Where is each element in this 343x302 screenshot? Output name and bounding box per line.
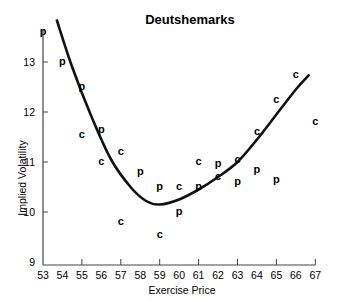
put-point: p [40,25,47,37]
call-point: c [176,180,182,192]
call-point: c [293,68,299,80]
x-tick-label: 65 [271,269,283,281]
axes: 910111213535455565758596061626364656667 [23,30,321,281]
y-tick-label: 9 [29,256,35,268]
put-point: p [156,180,163,192]
call-point: c [273,93,279,105]
put-point: p [195,180,202,192]
x-tick-label: 63 [232,269,244,281]
call-point: c [118,215,124,227]
x-tick-label: 59 [154,269,166,281]
call-point: c [157,228,163,240]
x-tick-label: 58 [134,269,146,281]
fitted-curve [57,20,310,205]
put-point: p [273,173,280,185]
put-point: p [137,165,144,177]
call-point: c [196,155,202,167]
x-tick-label: 61 [193,269,205,281]
x-tick-label: 53 [37,269,49,281]
volatility-smile-curve [57,20,310,205]
put-point: p [234,175,241,187]
x-tick-label: 64 [251,269,263,281]
call-point: c [98,155,104,167]
put-point: p [254,163,261,175]
call-point: c [254,125,260,137]
call-point: c [234,153,240,165]
call-point: c [312,115,318,127]
put-point: p [176,205,183,217]
put-point: p [215,157,222,169]
x-tick-label: 55 [76,269,88,281]
call-point: c [215,170,221,182]
x-tick-label: 57 [115,269,127,281]
y-tick-label: 12 [23,106,35,118]
implied-volatility-chart: Deutshemarks 910111213535455565758596061… [0,0,343,302]
x-tick-label: 66 [290,269,302,281]
y-axis-label: Implied Volatility [16,140,28,216]
data-points: cccccccccccccpppppppppppp [40,25,319,240]
x-tick-label: 62 [212,269,224,281]
x-tick-label: 54 [57,269,69,281]
call-point: c [79,128,85,140]
chart-title: Deutshemarks [145,12,235,27]
put-point: p [79,80,86,92]
put-point: p [98,123,105,135]
x-tick-label: 60 [173,269,185,281]
y-tick-label: 13 [23,56,35,68]
x-axis-label: Exercise Price [148,284,215,296]
call-point: c [118,145,124,157]
x-tick-label: 56 [96,269,108,281]
put-point: p [59,55,66,67]
x-tick-label: 67 [309,269,321,281]
